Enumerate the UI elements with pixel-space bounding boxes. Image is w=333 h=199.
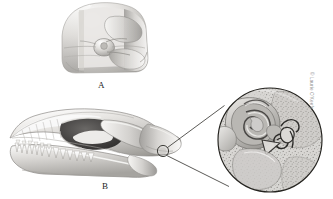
panel-a-skull-anterior: [58, 0, 154, 80]
panel-label-a: A: [98, 81, 105, 90]
panel-label-b: B: [102, 182, 108, 191]
anatomical-illustration: [0, 0, 333, 199]
panel-b-skull-lateral: [10, 109, 181, 178]
magnified-ear-inset: [212, 86, 324, 194]
copyright-credit: © Laurie O'Keefe: [309, 72, 314, 118]
figure-container: A B © Laurie O'Keefe: [0, 0, 333, 199]
